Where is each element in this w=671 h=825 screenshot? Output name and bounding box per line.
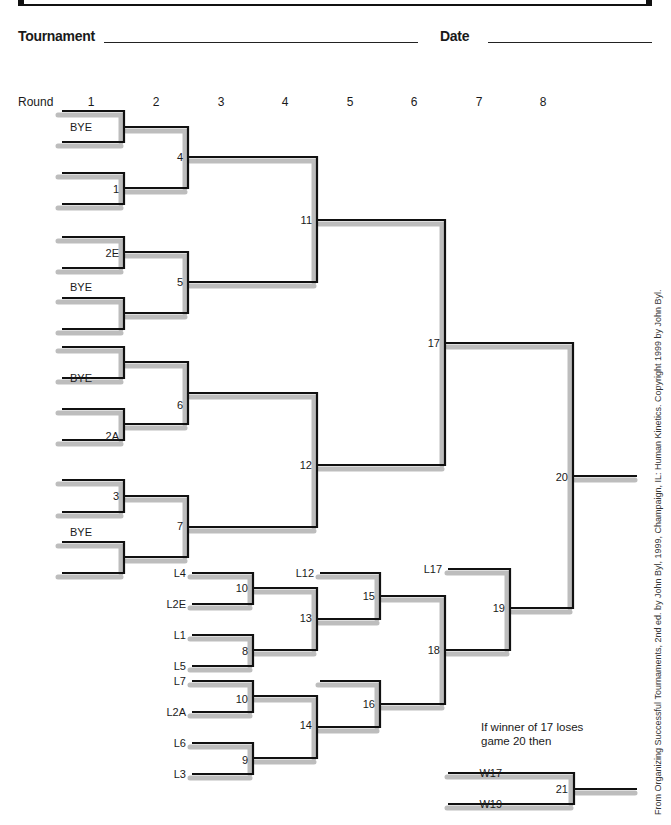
entry-l3: L3 [174, 768, 186, 780]
game-number-14: 14 [300, 719, 312, 731]
copyright-credit: From Organizing Successful Tournaments, … [653, 289, 663, 815]
game-number-18: 18 [428, 644, 440, 656]
game-number-10: 10 [236, 582, 248, 594]
entry-w19: W19 [479, 798, 502, 810]
game-number-6: 6 [177, 399, 183, 411]
entry-w17: W17 [479, 767, 502, 779]
game-number-10: 10 [236, 693, 248, 705]
game-number-19: 19 [493, 602, 505, 614]
game-number-16: 16 [363, 698, 375, 710]
entry-l7: L7 [174, 675, 186, 687]
entry-bye: BYE [70, 372, 92, 384]
game-number-7: 7 [177, 520, 183, 532]
if-necessary-note: If winner of 17 loses game 20 then [481, 720, 583, 748]
entry-l17: L17 [424, 563, 442, 575]
bracket-diagram [0, 0, 671, 825]
entry-bye: BYE [70, 526, 92, 538]
game-number-12: 12 [300, 459, 312, 471]
game-number-17: 17 [428, 337, 440, 349]
note-line-1: If winner of 17 loses [481, 720, 583, 734]
entry-l5: L5 [174, 660, 186, 672]
entry-l6: L6 [174, 737, 186, 749]
game-number-21: 21 [556, 783, 568, 795]
game-number-8: 8 [242, 645, 248, 657]
entry-l1: L1 [174, 629, 186, 641]
game-number-20: 20 [556, 471, 568, 483]
entry-bye: BYE [70, 281, 92, 293]
entry-l2e: L2E [166, 598, 186, 610]
game-number-5: 5 [177, 276, 183, 288]
entry-l2a: L2A [166, 706, 186, 718]
entry-2a: 2A [106, 430, 119, 442]
entry-game-3: 3 [113, 490, 119, 502]
entry-game-1: 1 [113, 183, 119, 195]
entry-2e: 2E [106, 247, 119, 259]
game-number-9: 9 [242, 754, 248, 766]
entry-bye: BYE [70, 121, 92, 133]
entry-l4: L4 [174, 567, 186, 579]
game-number-15: 15 [363, 590, 375, 602]
entry-l12: L12 [296, 567, 314, 579]
game-number-13: 13 [300, 612, 312, 624]
game-number-11: 11 [301, 214, 312, 226]
note-line-2: game 20 then [481, 734, 583, 748]
game-number-4: 4 [177, 151, 183, 163]
